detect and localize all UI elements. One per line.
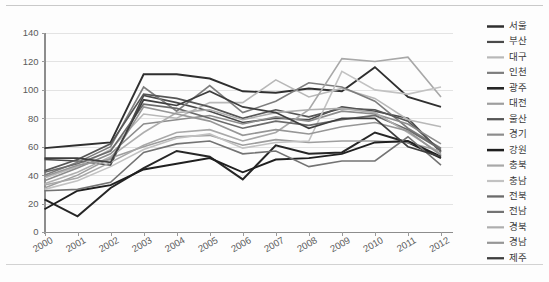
legend-label-경기: 경기 (509, 128, 527, 139)
xtick-label-2002: 2002 (97, 234, 121, 254)
legend-label-경북: 경북 (509, 221, 527, 232)
xtick-label-2009: 2009 (328, 234, 352, 254)
legend-label-울산: 울산 (509, 113, 527, 124)
xtick-label-2004: 2004 (163, 234, 187, 254)
legend-label-대구: 대구 (509, 51, 527, 62)
xtick-label-2011: 2011 (395, 234, 418, 254)
legend-item-충북[interactable]: 충북 (487, 159, 527, 170)
series-group (45, 57, 442, 216)
xtick-label-2012: 2012 (427, 234, 451, 254)
legend-item-제주[interactable]: 제주 (487, 252, 527, 263)
legend-item-강원[interactable]: 강원 (487, 144, 527, 155)
ytick-label-120: 120 (23, 56, 39, 67)
legend-item-서울[interactable]: 서울 (487, 20, 527, 31)
ytick-label-100: 100 (23, 84, 39, 95)
ytick-label-80: 80 (28, 113, 39, 124)
legend-item-전북[interactable]: 전북 (487, 190, 527, 201)
legend-label-전북: 전북 (509, 190, 527, 201)
legend-label-충북: 충북 (509, 159, 527, 170)
legend-label-전남: 전남 (509, 205, 527, 216)
legend-item-충남[interactable]: 충남 (487, 175, 527, 186)
xtick-labels-group: 2000200120022003200420052006200720082009… (31, 234, 451, 254)
ytick-labels-group: 140120100806040200 (23, 27, 39, 237)
xtick-label-2007: 2007 (262, 234, 286, 254)
ytick-label-40: 40 (28, 170, 39, 181)
ytick-label-140: 140 (23, 27, 39, 38)
chart-screenshot: 140120100806040200 200020012002200320042… (0, 0, 549, 282)
legend-label-서울: 서울 (509, 20, 527, 31)
ytick-label-60: 60 (28, 141, 39, 152)
legend-group: 서울부산대구인천광주대전울산경기강원충북충남전북전남경북경남제주 (487, 20, 527, 263)
legend-label-제주: 제주 (509, 252, 527, 263)
legend-label-강원: 강원 (509, 144, 527, 155)
legend-label-부산: 부산 (509, 35, 527, 46)
xtick-label-2006: 2006 (229, 234, 253, 254)
legend-item-경북[interactable]: 경북 (487, 221, 527, 232)
legend-label-경남: 경남 (509, 236, 527, 247)
legend-label-충남: 충남 (509, 175, 527, 186)
legend-item-전남[interactable]: 전남 (487, 205, 527, 216)
ytick-label-0: 0 (33, 226, 38, 237)
xtick-label-2001: 2001 (64, 234, 88, 254)
series-line-충북 (45, 57, 442, 185)
legend-label-광주: 광주 (509, 82, 527, 93)
chart-svg: 140120100806040200 200020012002200320042… (0, 0, 549, 282)
legend-item-대구[interactable]: 대구 (487, 51, 527, 62)
legend-item-울산[interactable]: 울산 (487, 113, 527, 124)
xtick-label-2008: 2008 (295, 234, 319, 254)
legend-item-경기[interactable]: 경기 (487, 128, 527, 139)
legend-item-경남[interactable]: 경남 (487, 236, 527, 247)
legend-label-대전: 대전 (509, 97, 527, 108)
ytick-label-20: 20 (28, 198, 39, 209)
xtick-label-2010: 2010 (361, 234, 385, 254)
legend-label-인천: 인천 (509, 66, 527, 77)
legend-item-광주[interactable]: 광주 (487, 82, 527, 93)
legend-item-대전[interactable]: 대전 (487, 97, 527, 108)
legend-item-인천[interactable]: 인천 (487, 66, 527, 77)
xtick-label-2003: 2003 (130, 234, 154, 254)
xtick-label-2005: 2005 (196, 234, 220, 254)
line-chart: 140120100806040200 200020012002200320042… (0, 0, 549, 282)
legend-item-부산[interactable]: 부산 (487, 35, 527, 46)
